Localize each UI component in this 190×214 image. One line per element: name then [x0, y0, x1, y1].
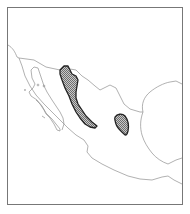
range-map: Mexico and southern United States	[0, 0, 190, 214]
map-frame	[8, 8, 183, 205]
map-canvas	[0, 0, 190, 214]
